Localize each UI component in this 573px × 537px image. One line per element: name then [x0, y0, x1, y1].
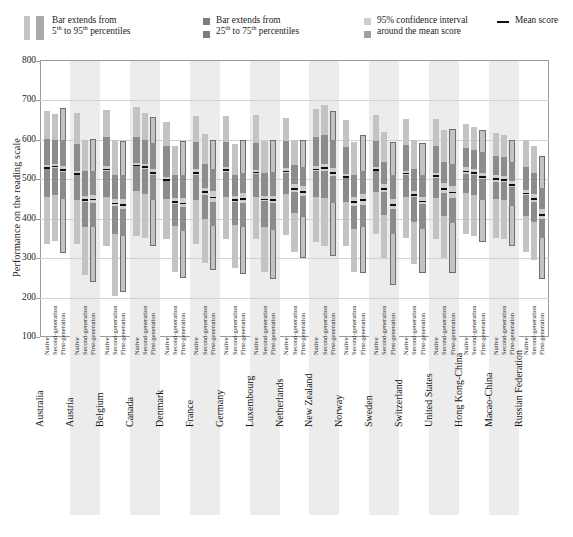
mean-score-line — [463, 171, 469, 173]
percentile-bar — [539, 156, 545, 279]
percentile-bar — [52, 114, 58, 241]
y-tick-label: 700 — [22, 94, 36, 104]
mean-score-line — [120, 204, 126, 206]
country-label: Germany — [214, 390, 225, 427]
mean-score-line — [291, 188, 297, 190]
interquartile-segment — [163, 146, 169, 199]
percentile-bar — [411, 140, 417, 264]
percentile-bar — [360, 135, 366, 273]
percentile-bar — [463, 124, 469, 234]
plot-wrapper: Performance on the reading scale 1002003… — [0, 52, 573, 537]
country-label: Macao-China — [483, 373, 494, 427]
mean-score-line — [112, 203, 118, 205]
generation-label: First-generation — [89, 313, 96, 355]
country-label: Australia — [34, 390, 45, 427]
mean-score-line — [300, 191, 306, 193]
percentile-bar — [501, 135, 507, 239]
percentile-bar — [120, 141, 126, 292]
mean-score-line — [509, 184, 515, 186]
percentile-bar — [351, 142, 357, 272]
legend-swatch-p5-95-a — [24, 16, 30, 40]
x-axis-labels: NativeSecond-generationFirst-generationA… — [40, 344, 549, 537]
generation-label: Second-generation — [470, 306, 477, 355]
chart-root: Bar extends from 5th to 95th percentiles… — [0, 0, 573, 537]
percentile-bar — [449, 129, 455, 273]
percentile-bar — [202, 134, 208, 263]
legend-label-p5-95: Bar extends from 5th to 95th percentiles — [52, 15, 130, 38]
percentile-bar — [180, 141, 186, 278]
y-tick-label: 200 — [22, 292, 36, 302]
percentile-bar — [433, 119, 439, 239]
generation-label: First-generation — [239, 313, 246, 355]
mean-score-line — [133, 165, 139, 167]
generation-label: First-generation — [538, 313, 545, 355]
percentile-bar — [193, 116, 199, 244]
country-label: Russian Federation — [513, 350, 524, 427]
percentile-bar — [142, 113, 148, 238]
percentile-bar — [172, 146, 178, 272]
legend-label-ci: 95% confidence interval around the mean … — [377, 15, 468, 38]
mean-score-line — [261, 199, 267, 201]
generation-label: First-generation — [179, 313, 186, 355]
generation-label: Native — [43, 337, 50, 355]
mean-score-line — [253, 172, 259, 174]
y-tick-label: 800 — [22, 55, 36, 65]
percentile-bar — [509, 140, 515, 246]
mean-score-line — [381, 188, 387, 190]
mean-score-line — [240, 198, 246, 200]
mean-score-line — [103, 169, 109, 171]
generation-label: Native — [73, 337, 80, 355]
generation-label: Second-generation — [261, 306, 268, 355]
percentile-bar — [419, 143, 425, 273]
percentile-bar — [321, 105, 327, 246]
country-label: Norway — [333, 395, 344, 427]
generation-label: First-generation — [299, 313, 306, 355]
percentile-bar — [210, 140, 216, 270]
country-label: New Zealand — [303, 373, 314, 427]
generation-label: Native — [282, 337, 289, 355]
mean-score-line — [343, 176, 349, 178]
mean-score-line — [390, 204, 396, 206]
generation-label: First-generation — [209, 313, 216, 355]
percentile-bar — [163, 122, 169, 239]
legend-ci-line2: around the mean score — [377, 26, 468, 37]
generation-label: Native — [252, 337, 259, 355]
mean-score-line — [411, 194, 417, 196]
mean-score-line — [433, 175, 439, 177]
generation-label: First-generation — [479, 313, 486, 355]
mean-score-line — [471, 172, 477, 174]
country-label: Hong Kong-China — [453, 353, 464, 427]
mean-score-line — [501, 179, 507, 181]
percentile-bar — [261, 141, 267, 272]
percentile-bar — [403, 119, 409, 237]
country-label: United States — [423, 373, 434, 427]
percentile-bar — [390, 142, 396, 285]
country-label: Luxembourg — [244, 376, 255, 427]
percentile-bar — [103, 110, 109, 246]
percentile-bar — [112, 140, 118, 296]
mean-score-line — [270, 199, 276, 201]
generation-label: Native — [222, 337, 229, 355]
generation-label: First-generation — [269, 313, 276, 355]
generation-label: Second-generation — [410, 306, 417, 355]
percentile-bar — [60, 108, 66, 254]
generation-label: First-generation — [59, 313, 66, 355]
percentile-bar — [82, 140, 88, 275]
generation-label: Second-generation — [500, 306, 507, 355]
mean-score-line — [283, 171, 289, 173]
mean-score-line — [180, 203, 186, 205]
percentile-bar — [523, 140, 529, 252]
generation-label: Second-generation — [291, 306, 298, 355]
mean-score-line — [142, 166, 148, 168]
percentile-bar — [300, 140, 306, 258]
generation-label: First-generation — [119, 313, 126, 355]
percentile-bar — [441, 130, 447, 258]
percentile-bar — [313, 109, 319, 242]
percentile-bar — [283, 118, 289, 235]
y-tick-label: 500 — [22, 173, 36, 183]
mean-score-line — [313, 169, 319, 171]
generation-label: First-generation — [359, 313, 366, 355]
legend-swatch-ci-a — [364, 18, 371, 25]
generation-label: Second-generation — [171, 306, 178, 355]
generation-label: Second-generation — [231, 306, 238, 355]
